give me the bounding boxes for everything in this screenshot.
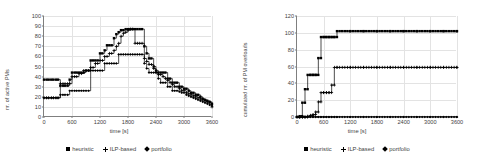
panel-active-pms: nr. of active PMs 0102030405060708090100… <box>0 0 238 167</box>
plus-marker-icon <box>341 147 346 152</box>
panel-pm-overloads: cumulated nr. of PM overloads 0204060801… <box>238 0 476 167</box>
figure-two-panel-chart: nr. of active PMs 0102030405060708090100… <box>0 0 477 167</box>
left-y-axis-label: nr. of active PMs <box>4 28 10 110</box>
legend-label: ILP-based <box>348 146 374 152</box>
series-markers-portfolio <box>43 53 214 107</box>
right-x-axis-label: time [s] <box>238 128 476 134</box>
right-legend: heuristicILP-basedportfolio <box>238 146 476 152</box>
right-plot-area: 020406080100120 060012001800240030003600 <box>296 16 456 117</box>
legend-label: ILP-based <box>110 146 136 152</box>
legend-item[interactable]: portfolio <box>145 146 172 152</box>
right-y-axis-label: cumulated nr. of PM overloads <box>242 16 248 117</box>
legend-item[interactable]: portfolio <box>383 146 410 152</box>
legend-label: portfolio <box>389 146 410 152</box>
diamond-marker-icon <box>382 146 388 152</box>
left-x-axis-label: time [s] <box>0 128 238 134</box>
diamond-marker-icon <box>144 146 150 152</box>
left-plot-area: 0102030405060708090100 06001200180024003… <box>43 16 211 117</box>
right-series-plot <box>297 16 457 117</box>
series-markers-ilp-based <box>296 66 459 119</box>
left-axes: 0102030405060708090100 06001200180024003… <box>43 16 211 117</box>
series-markers-heuristic <box>296 30 458 118</box>
legend-label: heuristic <box>72 146 94 152</box>
legend-label: portfolio <box>151 146 172 152</box>
plus-marker-icon <box>103 147 108 152</box>
series-line-heuristic <box>297 31 457 117</box>
left-legend: heuristicILP-basedportfolio <box>0 146 238 152</box>
legend-label: heuristic <box>310 146 332 152</box>
square-marker-icon <box>304 147 308 151</box>
square-marker-icon <box>66 147 70 151</box>
right-axes: 020406080100120 060012001800240030003600 <box>296 16 456 117</box>
legend-item[interactable]: ILP-based <box>103 146 136 152</box>
legend-item[interactable]: heuristic <box>304 146 332 152</box>
gridline <box>212 16 213 116</box>
legend-item[interactable]: heuristic <box>66 146 94 152</box>
legend-item[interactable]: ILP-based <box>341 146 374 152</box>
left-series-plot <box>44 16 212 117</box>
